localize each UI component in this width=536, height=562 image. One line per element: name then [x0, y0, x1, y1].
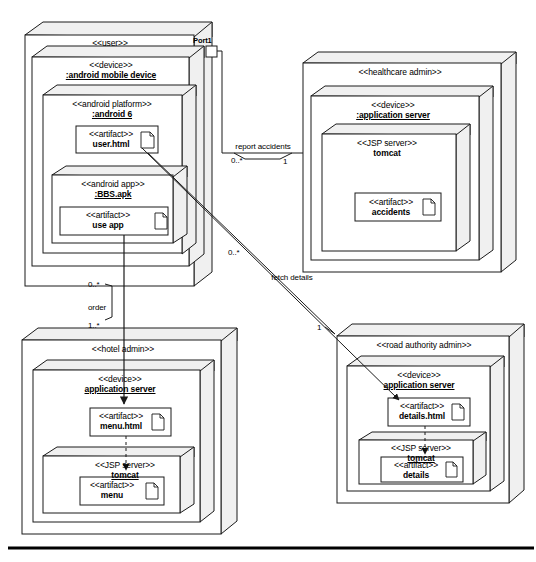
node-hotel-device-stereotype: <<device>> — [98, 375, 141, 384]
node-android-app-instance: :BBS.apk — [95, 190, 132, 199]
artifact-menu-html-name: menu.html — [100, 422, 142, 431]
artifact-accidents-name: accidents — [372, 208, 410, 217]
edge-fetch-details-target-mult: 1 — [317, 324, 321, 332]
edge-fetch-details-source-mult: 0..* — [228, 249, 240, 257]
port1-label: Port1 — [193, 37, 212, 45]
artifact-user-html-stereotype: <<artifact>> — [89, 130, 133, 139]
artifact-details-html-name: details.html — [399, 412, 445, 421]
edge-order-target-mult: 1..* — [88, 322, 100, 330]
artifact-details-name: details — [403, 471, 429, 480]
node-device-instance: :android mobile device — [66, 71, 156, 80]
artifact-menu-stereotype: <<artifact>> — [90, 481, 134, 490]
edge-report-accidents-source-mult: 0..* — [231, 157, 243, 165]
node-device-stereotype: <<device>> — [89, 61, 132, 70]
edge-report-accidents-target-mult: 1 — [283, 158, 287, 166]
node-android-platform-instance: :android 6 — [92, 110, 132, 119]
node-hotel-jsp-instance: tomcat — [111, 471, 138, 480]
artifact-menu-name: menu — [101, 491, 123, 500]
node-android-app-stereotype: <<android app>> — [81, 180, 144, 189]
node-road-admin-stereotype: <<road authority admin>> — [377, 341, 472, 350]
artifact-accidents-stereotype: <<artifact>> — [369, 198, 413, 207]
artifact-use-app-stereotype: <<artifact>> — [86, 211, 130, 220]
edge-order-source-mult: 0..* — [88, 281, 100, 289]
node-hotel-jsp-stereotype: <<JSP server>> — [95, 461, 155, 470]
artifact-details-stereotype: <<artifact>> — [394, 461, 438, 470]
node-road-jsp-stereotype: <<JSP server>> — [391, 444, 451, 453]
uml-deployment-diagram: <<user>> Port1 <<device>> :android mobil… — [0, 0, 536, 562]
edge-order-label: order — [88, 304, 106, 312]
node-android-platform-stereotype: <<android platform>> — [72, 100, 151, 109]
node-healthcare-device-instance: :application server — [356, 111, 430, 120]
node-healthcare-admin-stereotype: <<healthcare admin>> — [358, 68, 441, 77]
artifact-user-html-name: user.html — [93, 140, 130, 149]
node-road-device-stereotype: <<device>> — [397, 371, 440, 380]
node-road-device-instance: application server — [384, 381, 455, 390]
node-healthcare-jsp-name: tomcat — [373, 149, 400, 158]
artifact-use-app-name: use app — [92, 221, 123, 230]
artifact-menu-html-stereotype: <<artifact>> — [99, 412, 143, 421]
node-user-stereotype: <<user>> — [92, 39, 128, 48]
artifact-details-html-stereotype: <<artifact>> — [400, 402, 444, 411]
node-hotel-device-instance: application server — [85, 385, 156, 394]
diagram-canvas — [0, 0, 536, 562]
edge-fetch-details-label: fetch details — [271, 274, 312, 282]
node-healthcare-device-stereotype: <<device>> — [371, 101, 414, 110]
node-healthcare-jsp-stereotype: <<JSP server>> — [357, 139, 417, 148]
edge-report-accidents-label: report accidents — [235, 143, 290, 151]
port-symbol — [206, 46, 217, 57]
node-hotel-admin-stereotype: <<hotel admin>> — [92, 345, 154, 354]
